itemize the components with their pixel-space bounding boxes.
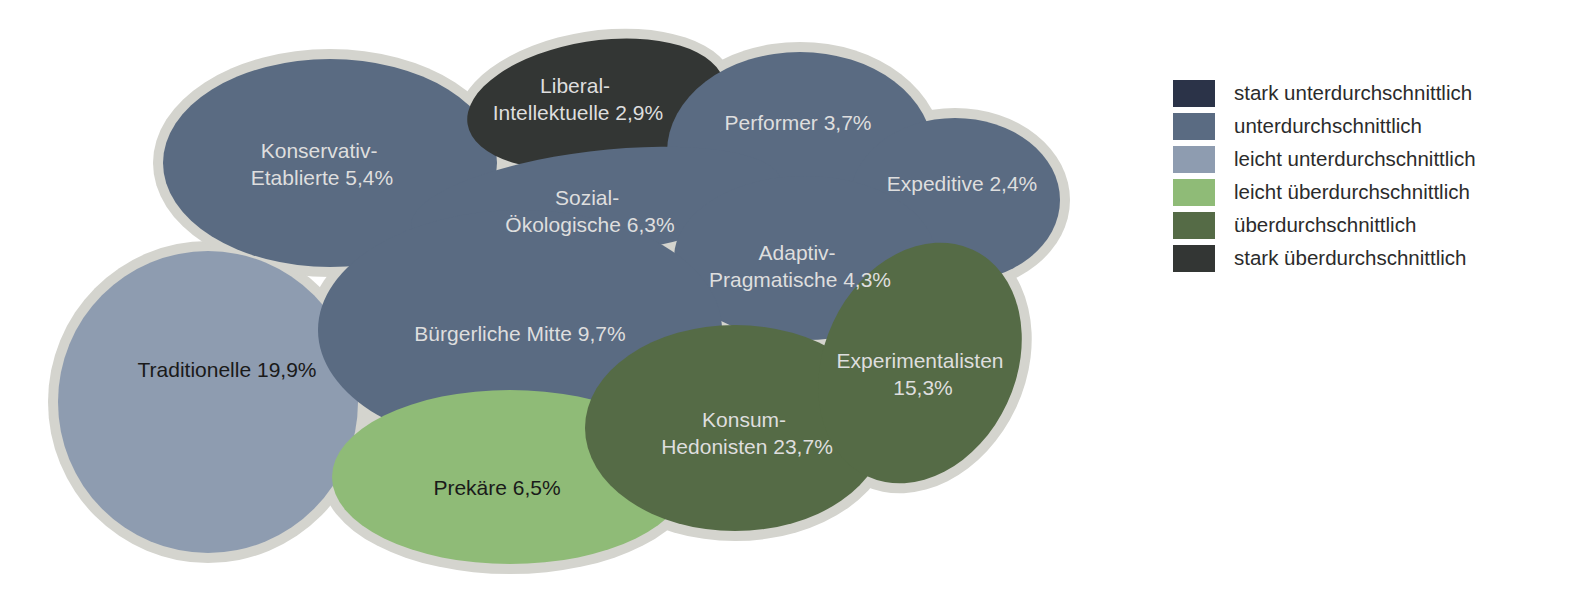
legend-item-stark-ueberdurchschnittlich[interactable]: stark überdurchschnittlich bbox=[1173, 243, 1553, 273]
legend-item-unterdurchschnittlich[interactable]: unterdurchschnittlich bbox=[1173, 111, 1553, 141]
legend-swatch-icon bbox=[1173, 146, 1215, 173]
legend-item-stark-unterdurchschnittlich[interactable]: stark unterdurchschnittlich bbox=[1173, 78, 1553, 108]
legend-swatch-icon bbox=[1173, 212, 1215, 239]
legend-swatch-icon bbox=[1173, 80, 1215, 107]
milieu-diagram: Konservativ- Etablierte 5,4% Liberal- In… bbox=[0, 0, 1110, 597]
legend: stark unterdurchschnittlich unterdurchsc… bbox=[1173, 78, 1553, 276]
shape-traditionelle[interactable] bbox=[58, 251, 358, 553]
legend-label: überdurchschnittlich bbox=[1234, 215, 1416, 236]
sinus-milieu-chart: Konservativ- Etablierte 5,4% Liberal- In… bbox=[0, 0, 1574, 597]
milieu-shapes bbox=[58, 21, 1060, 564]
legend-label: stark unterdurchschnittlich bbox=[1234, 83, 1472, 104]
legend-label: leicht unterdurchschnittlich bbox=[1234, 149, 1476, 170]
legend-item-leicht-ueberdurchschnittlich[interactable]: leicht überdurchschnittlich bbox=[1173, 177, 1553, 207]
legend-label: stark überdurchschnittlich bbox=[1234, 248, 1466, 269]
legend-item-ueberdurchschnittlich[interactable]: überdurchschnittlich bbox=[1173, 210, 1553, 240]
legend-swatch-icon bbox=[1173, 113, 1215, 140]
legend-swatch-icon bbox=[1173, 245, 1215, 272]
legend-item-leicht-unterdurchschnittlich[interactable]: leicht unterdurchschnittlich bbox=[1173, 144, 1553, 174]
legend-label: unterdurchschnittlich bbox=[1234, 116, 1422, 137]
legend-swatch-icon bbox=[1173, 179, 1215, 206]
legend-label: leicht überdurchschnittlich bbox=[1234, 182, 1470, 203]
